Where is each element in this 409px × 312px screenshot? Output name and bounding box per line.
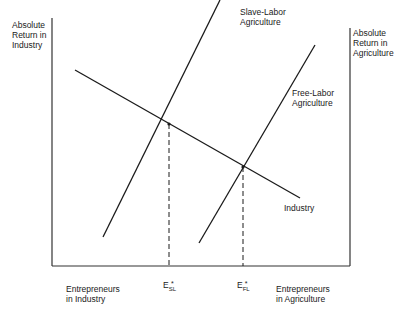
efl-label: EFL* — [237, 270, 247, 294]
esl-label: ESL* — [163, 270, 174, 294]
left-axis-label: Absolute Return in Industry — [12, 20, 47, 50]
slave-labor-label: Slave-Labor Agriculture — [240, 7, 286, 27]
right-axis-label: Absolute Return in Agriculture — [353, 28, 394, 58]
industry-curve — [75, 70, 300, 198]
esl-point — [167, 122, 170, 125]
slave-labor-curve — [103, 0, 220, 237]
industry-label: Industry — [284, 203, 314, 213]
bottom-left-label: Entrepreneurs in Industry — [66, 284, 120, 304]
free-labor-curve — [199, 45, 315, 243]
free-labor-label: Free-Labor Agriculture — [292, 88, 334, 108]
efl-point — [241, 165, 244, 168]
diagram-canvas — [0, 0, 409, 312]
bottom-right-label: Entrepreneurs in Agriculture — [276, 284, 330, 304]
